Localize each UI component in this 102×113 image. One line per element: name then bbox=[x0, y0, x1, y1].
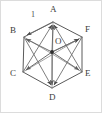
center-label-o: O bbox=[55, 37, 62, 46]
vertex-label-e: E bbox=[85, 69, 91, 78]
vertex-label-f: F bbox=[85, 25, 90, 34]
vertex-label-c: C bbox=[10, 69, 16, 78]
vertex-label-d: D bbox=[49, 93, 56, 102]
hexagon-vector-figure: A B C D E F O 1 bbox=[0, 0, 102, 113]
center-point-o bbox=[50, 50, 54, 54]
vertex-label-b: B bbox=[10, 26, 16, 35]
edge-length-label-ab: 1 bbox=[31, 11, 35, 19]
vertex-label-a: A bbox=[50, 5, 57, 14]
